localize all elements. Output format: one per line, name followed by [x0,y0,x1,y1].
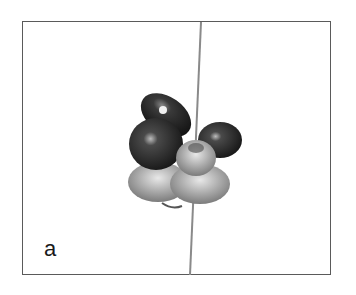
dark-bead-left [129,118,183,170]
panel-label: a [44,238,56,260]
bead-loop [162,203,182,207]
